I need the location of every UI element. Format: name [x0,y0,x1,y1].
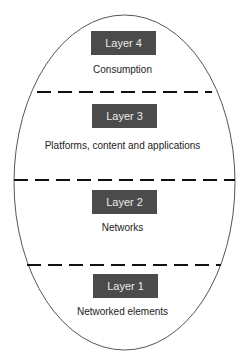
layer-2-box: Layer 2 [92,190,157,214]
layer-3-box: Layer 3 [92,104,157,128]
layer-1-box: Layer 1 [93,274,158,298]
layer-2-caption: Networks [0,222,245,234]
layer-4-caption: Consumption [0,64,245,76]
layer-3-caption: Platforms, content and applications [0,140,245,152]
layer-4-box: Layer 4 [91,31,156,55]
layer-1-caption: Networked elements [0,306,245,318]
